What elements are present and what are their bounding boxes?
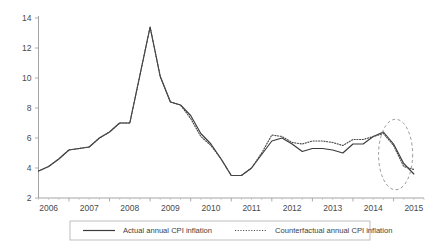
y-axis: 2468101214 (22, 13, 38, 203)
chart-legend: Actual annual CPI inflationCounterfactua… (70, 221, 392, 240)
x-tick-label: 2012 (283, 203, 302, 213)
y-tick-label: 10 (22, 73, 32, 83)
y-tick-label: 8 (27, 103, 32, 113)
line-chart: 2468101214 20062007200820092010201120122… (0, 0, 435, 248)
y-tick-label: 12 (22, 43, 32, 53)
x-tick-label: 2008 (120, 203, 139, 213)
x-tick-label: 2014 (364, 203, 383, 213)
data-series-group (39, 27, 414, 176)
x-axis: 2006200720082009201020112012201320142015 (39, 198, 425, 213)
x-tick-label: 2010 (201, 203, 220, 213)
legend-label: Counterfactual annual CPI inflation (275, 226, 392, 235)
x-tick-label: 2006 (39, 203, 58, 213)
y-tick-label: 6 (27, 133, 32, 143)
x-tick-label: 2007 (80, 203, 99, 213)
legend-label: Actual annual CPI inflation (123, 226, 212, 235)
x-tick-label: 2013 (323, 203, 342, 213)
y-axis-tick-labels: 2468101214 (22, 13, 32, 203)
highlight-ellipse-icon (379, 119, 413, 190)
x-axis-ticks (39, 198, 425, 202)
y-tick-label: 14 (22, 13, 32, 23)
annotation-group (379, 119, 413, 190)
y-tick-label: 2 (27, 193, 32, 203)
x-axis-tick-labels: 2006200720082009201020112012201320142015 (39, 203, 423, 213)
y-tick-label: 4 (27, 163, 32, 173)
x-tick-label: 2009 (161, 203, 180, 213)
chart-container: 2468101214 20062007200820092010201120122… (0, 0, 435, 248)
x-tick-label: 2015 (404, 203, 423, 213)
x-tick-label: 2011 (242, 203, 261, 213)
series-line-counterfactual (39, 27, 414, 176)
series-line-actual (39, 27, 414, 176)
